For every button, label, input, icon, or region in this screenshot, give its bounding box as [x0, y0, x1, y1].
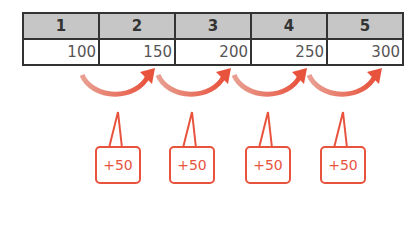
bubble-tails — [109, 112, 347, 148]
arrow-3-to-4-icon — [234, 68, 307, 94]
arrow-2-to-3-icon — [158, 68, 231, 94]
increment-label-2: +50 — [169, 146, 215, 184]
arrow-1-to-2-icon — [82, 68, 155, 94]
arrow-4-to-5-icon — [309, 68, 382, 94]
increment-label-3: +50 — [245, 146, 291, 184]
increment-label-4: +50 — [320, 146, 366, 184]
increment-label-1: +50 — [95, 146, 141, 184]
